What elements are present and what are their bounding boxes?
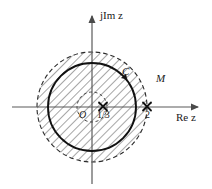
region-M-hatch-fill [0, 0, 212, 189]
pole-label-one-third: 1/3 [97, 110, 110, 120]
contour-C-label: C [122, 66, 129, 77]
pole-label-two: 2 [145, 110, 150, 120]
complex-plane-figure: jIm z Re z M C O 1/3 2 [0, 0, 212, 189]
real-axis-label: Re z [176, 112, 196, 123]
imaginary-axis-label: jIm z [100, 10, 123, 21]
region-M-label: M [156, 73, 165, 84]
figure-canvas [0, 0, 212, 189]
origin-label: O [79, 110, 86, 120]
